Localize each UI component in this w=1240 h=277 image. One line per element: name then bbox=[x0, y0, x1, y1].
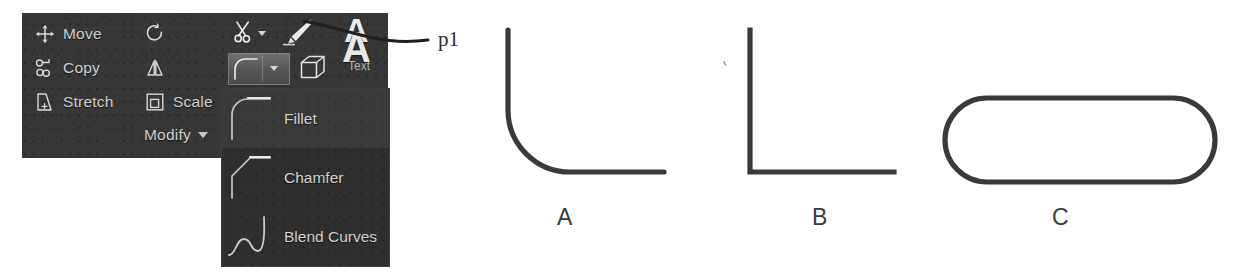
fillet-curve-icon bbox=[233, 57, 259, 81]
tool-button-label: Text bbox=[348, 59, 370, 73]
flyout-item-blend-curves[interactable]: Blend Curves bbox=[222, 207, 389, 266]
ribbon-item-stretch[interactable]: Stretch bbox=[34, 91, 114, 113]
mirror-icon bbox=[144, 57, 166, 79]
tool-button-fillet[interactable] bbox=[228, 53, 290, 85]
flyout-item-label: Blend Curves bbox=[284, 228, 377, 246]
figure-caption-a: A bbox=[557, 204, 572, 231]
rotate-icon bbox=[144, 23, 166, 45]
ribbon-item-label: Move bbox=[63, 25, 102, 43]
flyout-item-label: Chamfer bbox=[284, 169, 343, 187]
ribbon-item-mirror[interactable] bbox=[144, 57, 173, 79]
flyout-item-label: Fillet bbox=[284, 110, 317, 128]
move-icon bbox=[34, 23, 56, 45]
chamfer-preview-icon bbox=[226, 152, 282, 204]
figure-caption-c: C bbox=[1052, 204, 1069, 231]
figure-c-stadium-capsule bbox=[940, 85, 1230, 195]
leader-line-icon bbox=[300, 18, 440, 58]
panel-title-modify[interactable]: Modify bbox=[144, 126, 208, 144]
tool-button-trim[interactable] bbox=[232, 19, 256, 45]
page-canvas: Move Copy Stretch bbox=[0, 0, 1240, 277]
trim-scissors-icon bbox=[232, 19, 256, 45]
ribbon-item-label: Scale bbox=[173, 93, 213, 111]
panel-title-label: Modify bbox=[144, 126, 191, 144]
fillet-preview-icon bbox=[226, 93, 282, 145]
chevron-down-icon[interactable] bbox=[198, 132, 208, 138]
stretch-icon bbox=[34, 91, 56, 113]
figure-a-filleted-corner bbox=[480, 20, 680, 200]
fillet-dropdown-flyout: Fillet Chamfer Blend Curves bbox=[221, 88, 390, 267]
split-button-divider bbox=[262, 56, 263, 82]
ribbon-item-rotate[interactable] bbox=[144, 23, 173, 45]
chevron-down-icon[interactable] bbox=[258, 31, 266, 36]
figure-caption-b: B bbox=[812, 204, 827, 231]
ribbon-item-move[interactable]: Move bbox=[34, 23, 102, 45]
flyout-item-chamfer[interactable]: Chamfer bbox=[222, 148, 389, 207]
scale-icon bbox=[144, 91, 166, 113]
chevron-down-icon[interactable] bbox=[270, 66, 278, 71]
ribbon-item-label: Copy bbox=[63, 59, 100, 77]
figure-b-sharp-corner bbox=[710, 20, 910, 200]
ribbon-item-copy[interactable]: Copy bbox=[34, 57, 100, 79]
copy-icon bbox=[34, 57, 56, 79]
blend-curves-preview-icon bbox=[226, 211, 282, 263]
ribbon-item-scale[interactable]: Scale bbox=[144, 91, 213, 113]
ribbon-item-label: Stretch bbox=[63, 93, 114, 111]
annotation-label-p1: p1 bbox=[438, 27, 459, 52]
flyout-item-fillet[interactable]: Fillet bbox=[222, 89, 389, 148]
